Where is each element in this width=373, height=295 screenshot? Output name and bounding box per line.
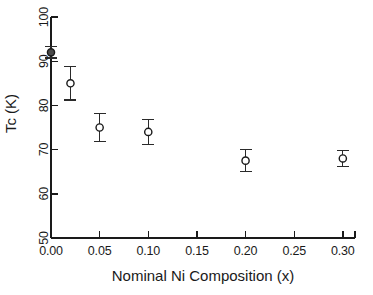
x-tick-label: 0.05	[88, 244, 112, 258]
data-marker	[242, 157, 249, 164]
chart-figure: 50607080901000.000.050.100.150.200.250.3…	[0, 0, 373, 295]
y-tick-label: 80	[37, 98, 51, 112]
data-point	[337, 150, 349, 166]
data-point	[64, 67, 76, 101]
data-marker	[339, 155, 346, 162]
y-axis-title: Tc (K)	[2, 94, 19, 133]
x-tick-label: 0.25	[282, 244, 306, 258]
x-axis-title: Nominal Ni Composition (x)	[112, 267, 295, 284]
x-tick-label: 0.10	[137, 244, 161, 258]
y-tick-label: 60	[37, 187, 51, 201]
data-marker	[145, 128, 152, 135]
data-point	[94, 113, 106, 141]
y-tick-label: 90	[37, 54, 51, 68]
y-tick-label: 70	[37, 143, 51, 157]
data-point	[240, 150, 252, 172]
data-marker	[67, 80, 74, 87]
y-tick-label: 50	[37, 231, 51, 245]
x-tick-label: 0.20	[234, 244, 258, 258]
x-tick-label: 0.15	[185, 244, 209, 258]
x-tick-label: 0.00	[39, 244, 63, 258]
data-point	[142, 120, 154, 145]
scatter-plot: 50607080901000.000.050.100.150.200.250.3…	[0, 0, 373, 295]
data-marker	[96, 124, 103, 131]
axis-ticks	[51, 17, 343, 238]
x-tick-label: 0.30	[331, 244, 355, 258]
data-series	[45, 47, 349, 172]
axis-tick-labels: 50607080901000.000.050.100.150.200.250.3…	[37, 7, 355, 258]
y-tick-label: 100	[37, 7, 51, 28]
